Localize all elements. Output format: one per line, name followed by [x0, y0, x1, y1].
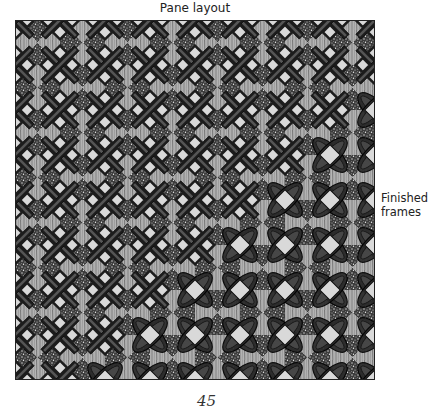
pane-frame — [311, 91, 350, 130]
finished-frames-label: Finished frames — [381, 191, 415, 219]
pane-frame — [15, 316, 34, 355]
pane-frame — [176, 136, 215, 175]
pane-frame — [86, 181, 125, 220]
pane-frame — [86, 136, 125, 175]
pane-frame — [41, 136, 80, 175]
pane-frame — [41, 316, 80, 355]
figure-title: Pane layout — [0, 1, 390, 15]
pane-frame — [41, 46, 80, 85]
pane-frame — [15, 181, 34, 220]
pane-frame — [176, 46, 215, 85]
pane-frame — [131, 46, 170, 85]
pane-frame — [86, 20, 125, 39]
pane-frame — [131, 271, 170, 310]
pane-pattern-figure — [15, 20, 375, 380]
page-number: 45 — [0, 392, 413, 410]
pane-frame — [86, 226, 125, 265]
pane-frame — [176, 91, 215, 130]
pane-frame — [221, 46, 260, 85]
pane-frame — [86, 46, 125, 85]
pane-frame — [86, 316, 125, 355]
pane-frame — [221, 20, 260, 39]
pane-frame — [41, 20, 80, 39]
side-label-line-2: frames — [381, 205, 415, 219]
pane-frame — [176, 20, 215, 39]
pane-frame — [41, 91, 80, 130]
pane-frame — [15, 91, 34, 130]
pane-frame — [266, 46, 305, 85]
pane-frame — [176, 181, 215, 220]
pane-frame — [131, 136, 170, 175]
pane-frame — [86, 91, 125, 130]
pane-frame — [176, 226, 215, 265]
quilt-pattern-diagram — [15, 20, 375, 380]
pane-frame — [15, 271, 34, 310]
pane-frame — [266, 20, 305, 39]
pane-frame — [15, 226, 34, 265]
pane-frame — [221, 136, 260, 175]
pane-frame — [131, 181, 170, 220]
pane-frame — [311, 20, 350, 39]
pane-frame — [41, 226, 80, 265]
pane-frame — [41, 181, 80, 220]
pane-frame — [131, 20, 170, 39]
pane-frame — [266, 136, 305, 175]
pane-frame — [356, 46, 375, 85]
pane-frame — [86, 271, 125, 310]
pane-frame — [311, 46, 350, 85]
side-label-line-1: Finished — [381, 191, 415, 205]
pane-frame — [221, 181, 260, 220]
pane-frame — [131, 226, 170, 265]
pane-frame — [41, 361, 80, 380]
pane-frame — [131, 91, 170, 130]
pane-frame — [15, 136, 34, 175]
pane-frame — [221, 91, 260, 130]
pane-frame — [15, 46, 34, 85]
pane-frame — [41, 271, 80, 310]
pane-frame — [266, 91, 305, 130]
